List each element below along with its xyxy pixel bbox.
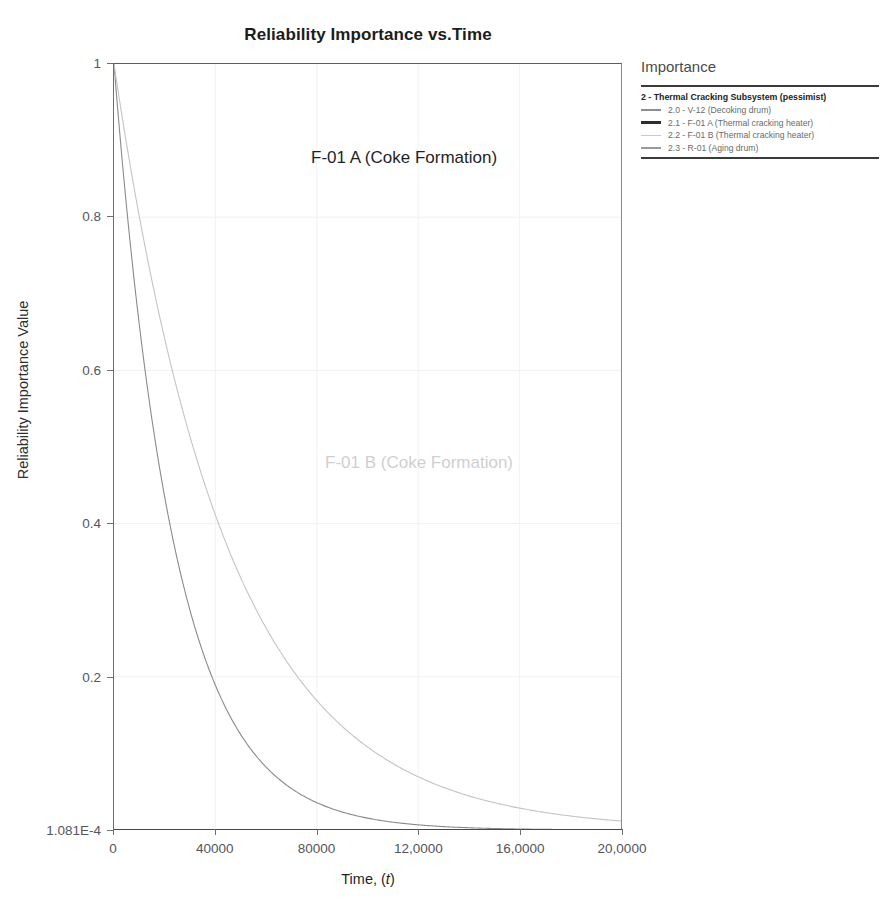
x-tick-label: 16,0000 [496, 841, 545, 856]
legend-swatch-icon [641, 121, 661, 124]
series-line-f01a [114, 64, 621, 830]
y-tick-label: 0.2 [1, 669, 101, 684]
annotation-f01b: F-01 B (Coke Formation) [325, 453, 513, 473]
legend-divider-bottom [641, 157, 879, 159]
series-line-f01b [114, 64, 621, 821]
x-tick-label: 80000 [298, 841, 336, 856]
legend-item-label: 2.3 - R-01 (Aging drum) [668, 143, 758, 153]
legend-swatch-icon [641, 147, 661, 149]
x-tick-mark [113, 829, 114, 835]
legend-item[interactable]: 2.0 - V-12 (Decoking drum) [641, 105, 879, 115]
legend-item[interactable]: 2.3 - R-01 (Aging drum) [641, 143, 879, 153]
legend-title: Importance [641, 58, 879, 75]
plot-area: F-01 A (Coke Formation) F-01 B (Coke For… [113, 63, 622, 830]
legend-group-label: 2 - Thermal Cracking Subsystem (pessimis… [641, 92, 879, 102]
legend-item-list: 2.0 - V-12 (Decoking drum)2.1 - F-01 A (… [641, 105, 879, 153]
y-tick-label: 1.081E-4 [1, 822, 101, 837]
legend-item-label: 2.0 - V-12 (Decoking drum) [668, 105, 771, 115]
x-axis-title: Time, (t) [113, 871, 623, 887]
x-tick-mark [215, 829, 216, 835]
y-tick-label: 1 [1, 56, 101, 71]
x-tick-label: 40000 [196, 841, 234, 856]
x-axis: Time, (t) 0400008000012,000016,000020,00… [113, 829, 623, 899]
legend-item-label: 2.2 - F-01 B (Thermal cracking heater) [668, 130, 814, 140]
x-tick-mark [622, 829, 623, 835]
x-axis-title-close: ) [390, 871, 395, 887]
x-tick-label: 12,0000 [394, 841, 443, 856]
y-axis-title: Reliability Importance Value [15, 301, 31, 480]
x-axis-title-text: Time, ( [341, 871, 386, 887]
legend-item[interactable]: 2.2 - F-01 B (Thermal cracking heater) [641, 130, 879, 140]
legend-item[interactable]: 2.1 - F-01 A (Thermal cracking heater) [641, 118, 879, 128]
plot-canvas [114, 64, 621, 830]
y-axis-title-holder: Reliability Importance Value [8, 180, 38, 600]
legend-item-label: 2.1 - F-01 A (Thermal cracking heater) [668, 118, 813, 128]
chart-page: Reliability Importance vs.Time 10.80.60.… [0, 0, 884, 908]
chart-title: Reliability Importance vs.Time [113, 25, 623, 45]
x-tick-mark [418, 829, 419, 835]
x-tick-mark [317, 829, 318, 835]
x-tick-mark [520, 829, 521, 835]
x-tick-label: 20,0000 [598, 841, 647, 856]
annotation-f01a: F-01 A (Coke Formation) [311, 148, 497, 168]
legend-swatch-icon [641, 109, 661, 111]
x-tick-label: 0 [109, 841, 117, 856]
legend-swatch-icon [641, 135, 661, 136]
legend-divider-top [641, 85, 879, 87]
legend: Importance 2 - Thermal Cracking Subsyste… [641, 58, 879, 164]
